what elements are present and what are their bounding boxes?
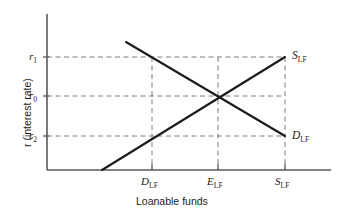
supply-curve-label-sub: LF bbox=[298, 55, 307, 64]
chart-canvas bbox=[0, 0, 345, 218]
y-tick-label-r0-sub: 0 bbox=[33, 95, 37, 104]
x-axis-title: Loanable funds bbox=[136, 196, 208, 207]
x-tick-label-dlf-base: D bbox=[141, 175, 149, 187]
y-tick-label-r1: r1 bbox=[29, 51, 37, 62]
x-tick-label-dlf-sub: LF bbox=[149, 181, 158, 190]
demand-curve bbox=[126, 42, 285, 136]
x-tick-label-slf-base: S bbox=[275, 175, 281, 187]
y-tick-label-r2-sub: 2 bbox=[33, 135, 37, 144]
loanable-funds-market-diagram: r1 r0 r2 DLF ELF SLF SLF DLF Loanable fu… bbox=[0, 0, 345, 218]
x-tick-label-slf: SLF bbox=[275, 176, 289, 187]
demand-curve-label-sub: LF bbox=[300, 135, 309, 144]
supply-curve-label-base: S bbox=[292, 49, 298, 61]
demand-curve-label: DLF bbox=[292, 130, 309, 142]
x-tick-label-elf-base: E bbox=[207, 175, 214, 187]
x-tick-label-dlf: DLF bbox=[141, 176, 158, 187]
x-tick-label-slf-sub: LF bbox=[281, 181, 290, 190]
supply-curve-label: SLF bbox=[292, 50, 307, 62]
supply-curve bbox=[102, 57, 285, 170]
x-tick-label-elf-sub: LF bbox=[214, 181, 223, 190]
x-tick-label-elf: ELF bbox=[207, 176, 223, 187]
y-tick-label-r1-sub: 1 bbox=[33, 56, 37, 65]
y-axis-title: r (interest rate) bbox=[22, 78, 33, 147]
